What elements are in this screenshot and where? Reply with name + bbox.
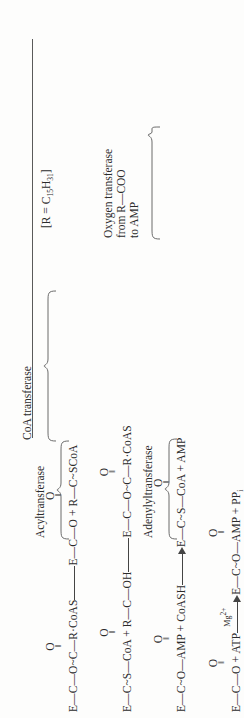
brace-label-acyltransferase: Acyltransferase <box>34 466 47 538</box>
row1-post-text: C~O—AMP + PP <box>230 492 236 576</box>
brace-label-oxygen-transferase: Oxygen transferase from R—COO to AMP <box>102 149 141 238</box>
row3-carbonyl-left: O‖C~S—CoA + R—C—OH <box>121 572 133 694</box>
carbonyl-oxygen-icon: O‖ <box>208 659 224 667</box>
row4-carbonyl-left: O‖C—O~C—R·CoAS <box>67 600 79 694</box>
brace-adenylyltransferase <box>164 438 178 540</box>
reaction-row-3: E—O‖C~S—CoA + R—C—OHE—O‖C—O~C—R·CoAS <box>121 425 133 712</box>
row1-arrow-icon: Mg2+ <box>232 595 236 633</box>
row1-carbonyl-left: O‖C—O + ATP <box>230 633 236 693</box>
row2-carbonyl-left: O‖C~O—AMP + CoASH <box>175 585 187 693</box>
r-group-definition-note: [R = C15H31] <box>40 169 55 228</box>
row4-connector-line <box>74 566 75 600</box>
row3-enzyme-label: E <box>121 705 133 712</box>
brace-coa-transferase <box>43 290 57 442</box>
carbonyl-oxygen-icon: O‖ <box>208 529 224 537</box>
brace-oxygen-transferase <box>147 126 161 240</box>
row4-product-enzyme-label: E <box>67 558 79 565</box>
reaction-scheme-figure: E—O‖C—O + ATPMg2+E—O‖C~O—AMP + PPi E—O‖C… <box>42 0 236 718</box>
row1-catalyst-label: Mg2+ <box>219 607 232 627</box>
row3-post-text: C—O~C—R·CoAS <box>121 425 133 519</box>
figure-separator-rule <box>32 39 33 438</box>
row3-product-enzyme-label: E <box>121 530 133 537</box>
row1-enzyme-label: E <box>230 705 236 712</box>
row4-pre-text: C—O~C—R·CoAS <box>67 600 79 694</box>
row2-pre-text: C~O—AMP + CoASH <box>175 585 187 693</box>
reaction-row-1: E—O‖C—O + ATPMg2+E—O‖C~O—AMP + PPi <box>230 489 236 712</box>
row1-product-enzyme-label: E <box>230 588 236 595</box>
row3-connector-line <box>128 538 129 572</box>
row4-enzyme-label: E <box>67 705 79 712</box>
row3-pre-text: C~S—CoA + R—C—OH <box>121 572 133 694</box>
brace-label-adenylyltransferase: Adenylyltransferase <box>142 445 155 538</box>
carbonyl-oxygen-icon: O‖ <box>99 468 115 476</box>
row1-pre-text: C—O + ATP <box>230 633 236 693</box>
row2-arrow-icon <box>177 547 187 585</box>
row1-carbonyl-right: O‖C~O—AMP + PPi <box>230 489 236 576</box>
carbonyl-oxygen-icon: O‖ <box>99 628 115 636</box>
carbonyl-oxygen-icon: O‖ <box>153 635 169 643</box>
row3-carbonyl-right: O‖C—O~C—R·CoAS <box>121 425 133 519</box>
carbonyl-oxygen-icon: O‖ <box>45 642 61 650</box>
row2-enzyme-label: E <box>175 705 187 712</box>
figure-canvas: E—O‖C—O + ATPMg2+E—O‖C~O—AMP + PPi E—O‖C… <box>42 0 236 718</box>
brace-acyltransferase <box>56 440 70 540</box>
row2-product-enzyme-label: E <box>175 540 187 547</box>
